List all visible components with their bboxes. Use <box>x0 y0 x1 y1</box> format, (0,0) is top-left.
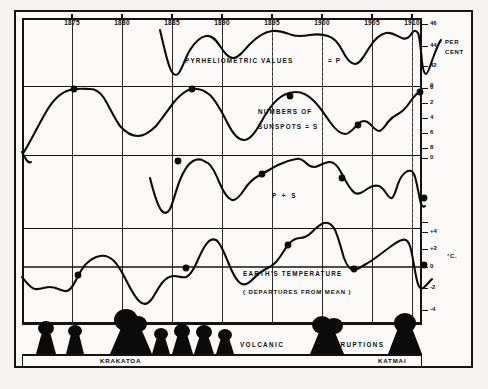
marker-sunspot-2 <box>189 86 196 93</box>
volcanic-caption-2: ERUPTIONS <box>335 341 384 348</box>
ylabel-p2-4: 4 <box>430 114 433 120</box>
ytick-p1-44 <box>422 46 428 47</box>
ytick-p4-plus2 <box>422 249 428 250</box>
yunit-celsius: °C. <box>447 252 457 260</box>
ylabel-p3-0: 0 <box>430 154 433 160</box>
ytick-p2-0 <box>422 88 428 89</box>
volcano-plume-1890 <box>196 325 212 339</box>
annotation-pyrheliometric-suffix: = P <box>328 57 341 64</box>
ytick-p4-minus4 <box>422 310 428 311</box>
annotation-sum: P + S <box>272 192 297 199</box>
annotation-temperature-line2: ( DEPARTURES FROM MEAN ) <box>243 289 352 295</box>
marker-sunspot-5 <box>417 89 424 96</box>
ylabel-p4-plus4: +4 <box>430 228 437 234</box>
volcano-plume-katmai <box>394 313 416 333</box>
annotation-pyrheliometric: PYRHELIOMETRIC VALUES <box>185 57 293 64</box>
volcano-plume-1902-b <box>325 318 343 334</box>
volcano-plume-1886 <box>154 328 168 340</box>
marker-sum-2 <box>259 171 266 178</box>
annotation-sunspots-line1: NUMBERS OF <box>258 108 312 115</box>
ylabel-p2-8: 8 <box>430 144 433 150</box>
ylabel-p4-minus4: -4 <box>430 306 435 312</box>
marker-temp-2 <box>183 265 190 272</box>
curve-temperature <box>22 223 432 304</box>
ylabel-p2-0: 0 <box>430 84 433 90</box>
volcano-plume-1874 <box>38 321 54 335</box>
marker-sum-4 <box>421 195 428 202</box>
volcano-plume-1892 <box>218 329 232 341</box>
marker-temp-4 <box>351 266 358 273</box>
ylabel-p2-6: 6 <box>430 129 433 135</box>
ytick-p2-8 <box>422 148 428 149</box>
curve-pyrheliometric <box>160 30 441 75</box>
marker-sum-1 <box>175 158 182 165</box>
ylabel-p2-2: 2 <box>430 99 433 105</box>
ytick-p4-minus2 <box>422 288 428 289</box>
ytick-p4-0 <box>422 267 428 268</box>
annotation-sunspots-line2: SUNSPOTS = S <box>258 123 318 130</box>
ylabel-p4-plus2: +2 <box>430 245 437 251</box>
marker-sunspot-4 <box>355 122 362 129</box>
marker-temp-1 <box>75 272 82 279</box>
marker-sunspot-3 <box>287 93 294 100</box>
ytick-p2-4 <box>422 118 428 119</box>
ytick-p4-plus4 <box>422 232 428 233</box>
ytick-p2-2 <box>422 103 428 104</box>
volcano-caption-box <box>22 354 422 368</box>
yunit-per: PER <box>445 38 459 46</box>
volcano-plume-1877 <box>68 325 82 337</box>
curve-sunspots <box>24 89 422 152</box>
ytick-p2-6 <box>422 133 428 134</box>
annotation-temperature-line1: EARTH'S TEMPERATURE <box>243 270 342 277</box>
ytick-p1-46 <box>422 24 428 25</box>
volcano-label-katmai: KATMAI <box>378 357 406 364</box>
volcanic-caption: VOLCANIC <box>240 341 284 348</box>
curve-sum <box>22 152 425 213</box>
yunit-cent: CENT <box>445 48 464 56</box>
ytick-p3-0 <box>422 158 428 159</box>
volcano-plume-1888 <box>174 324 190 338</box>
ytick-p1-42 <box>422 66 428 67</box>
marker-temp-3 <box>285 242 292 249</box>
ylabel-p1-44: 44 <box>430 42 437 48</box>
ylabel-p1-46: 46 <box>430 20 437 26</box>
marker-sum-3 <box>339 175 346 182</box>
ylabel-p1-42: 42 <box>430 62 437 68</box>
ytick-p3-low <box>422 222 428 223</box>
volcano-label-krakatoa: KRAKATOA <box>100 357 141 364</box>
figure-root: 1875 1880 1885 1890 1895 1900 1905 1910 <box>0 0 488 389</box>
volcano-plume-krakatoa-b <box>129 316 147 332</box>
marker-sunspot-1 <box>71 86 78 93</box>
ylabel-p4-minus2: -2 <box>430 284 435 290</box>
ylabel-p4-0: 0 <box>430 263 433 269</box>
